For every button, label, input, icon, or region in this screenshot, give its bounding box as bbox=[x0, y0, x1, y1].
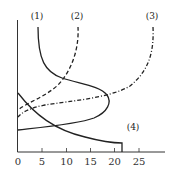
tick-label-20: 20 bbox=[108, 156, 121, 167]
tick-label-5: 5 bbox=[39, 156, 45, 167]
tick-label-10: 10 bbox=[60, 156, 73, 167]
tick-label-25: 25 bbox=[133, 156, 146, 167]
series-label-4: (4) bbox=[127, 122, 140, 132]
x-ticks bbox=[42, 148, 139, 152]
tick-label-15: 15 bbox=[84, 156, 97, 167]
tick-label-0: 0 bbox=[15, 156, 21, 167]
chart-canvas: 0 5 10 15 20 25 (1) (2) (3) (4) bbox=[0, 0, 173, 174]
series-label-2: (2) bbox=[71, 11, 84, 21]
series-label-3: (3) bbox=[146, 11, 159, 21]
series-label-1: (1) bbox=[31, 11, 44, 21]
